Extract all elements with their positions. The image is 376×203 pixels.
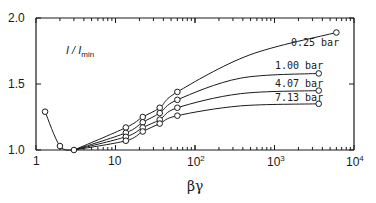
series-label-1.00-bar: 1.00 bar — [275, 60, 323, 71]
x-tick-10000: 104 — [346, 154, 364, 169]
y-tick-1.5: 1.5 — [8, 77, 25, 91]
data-point-marker — [157, 121, 163, 127]
x-tick-10: 10 — [108, 154, 122, 168]
data-point-marker — [157, 105, 163, 111]
data-point-marker — [175, 89, 181, 95]
series-label-0.25-bar: 0.25 bar — [291, 37, 339, 48]
data-point-marker — [175, 113, 181, 119]
chart: 2.0 1.5 1.0 1 10 102 103 104 I / Imin βγ… — [0, 0, 376, 203]
data-point-marker — [57, 143, 63, 149]
x-tick-1: 1 — [33, 154, 40, 168]
data-point-marker — [123, 138, 129, 144]
data-point-marker — [334, 30, 340, 36]
data-point-marker — [42, 109, 48, 115]
x-tick-100: 102 — [187, 154, 205, 169]
series-label-4.07-bar: 4.07 bar — [275, 78, 323, 89]
data-point-marker — [71, 147, 77, 153]
data-point-marker — [316, 71, 322, 77]
x-axis-label: βγ — [187, 178, 203, 194]
y-tick-1.0: 1.0 — [8, 143, 25, 157]
data-point-marker — [157, 110, 163, 116]
data-point-marker — [123, 125, 129, 131]
curve-7.13-bar — [74, 104, 319, 150]
data-point-marker — [140, 114, 146, 120]
data-point-marker — [140, 129, 146, 135]
x-tick-1000: 103 — [267, 154, 285, 169]
series-label-7.13-bar: 7.13 bar — [275, 92, 323, 103]
data-point-marker — [175, 97, 181, 103]
y-axis-label: I / Imin — [66, 44, 94, 59]
data-point-marker — [175, 105, 181, 111]
y-tick-2.0: 2.0 — [8, 11, 25, 25]
data-point-marker — [140, 119, 146, 125]
